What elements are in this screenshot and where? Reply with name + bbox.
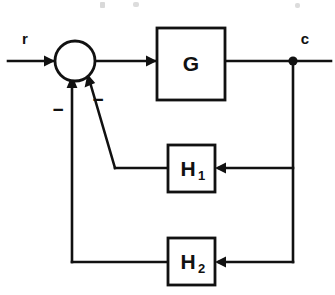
block-g-label: G bbox=[183, 52, 199, 75]
block-h1-subscript: 1 bbox=[198, 168, 205, 183]
arrowhead-into-h1-block bbox=[215, 163, 226, 174]
takeoff-node-c bbox=[288, 56, 297, 65]
block-diagram-svg: G H 1 H 2 r c − − bbox=[0, 0, 335, 295]
block-diagram-canvas: G H 1 H 2 r c − − bbox=[0, 0, 335, 295]
summing-junction[interactable] bbox=[55, 41, 95, 81]
minus-sign-h1-feedback: − bbox=[92, 89, 103, 110]
minus-sign-h2-feedback: − bbox=[52, 99, 63, 120]
input-signal-label-r: r bbox=[22, 30, 28, 47]
wire-sum-to-g bbox=[95, 56, 157, 67]
block-h1-label: H bbox=[180, 157, 195, 180]
arrowhead-into-g-block bbox=[146, 56, 157, 67]
block-h2[interactable]: H 2 bbox=[168, 238, 215, 285]
output-signal-label-c: c bbox=[301, 30, 309, 47]
block-g[interactable]: G bbox=[157, 28, 225, 100]
wire-c-into-h1 bbox=[215, 163, 293, 174]
block-h2-label: H bbox=[180, 250, 195, 273]
block-h2-subscript: 2 bbox=[198, 261, 205, 276]
arrowhead-into-h2-block bbox=[215, 257, 226, 268]
wire-c-into-h2 bbox=[215, 257, 293, 268]
cropped-text-artifact bbox=[100, 2, 300, 8]
wire-input-r bbox=[8, 56, 55, 67]
arrowhead-into-summing-junction bbox=[44, 56, 55, 67]
block-h1[interactable]: H 1 bbox=[168, 145, 215, 192]
